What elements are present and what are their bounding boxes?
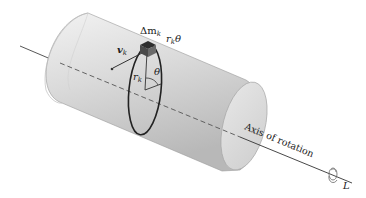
arc-length-label: rkθ [166,33,181,46]
cylinder-rotation-diagram: Δmk rkθ vk rk θ Axis of rotation L [0,0,366,198]
velocity-tip [111,68,114,71]
angular-momentum-label: L [342,180,350,191]
angle-label: θ [154,66,160,77]
mass-label: Δmk [140,25,161,38]
